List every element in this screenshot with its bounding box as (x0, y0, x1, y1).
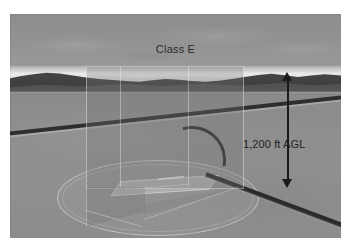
airspace-illustration-figure: Class E 1,200 ft AGL (10, 14, 341, 238)
cloud-texture (10, 14, 341, 70)
airspace-volume-edge-left (120, 66, 121, 187)
arrow-head-down-icon (282, 179, 292, 188)
airspace-volume-edge-right (188, 66, 189, 187)
altitude-label: 1,200 ft AGL (243, 138, 305, 150)
page-root: Class E 1,200 ft AGL (0, 0, 351, 246)
class-e-label: Class E (10, 43, 341, 55)
altitude-dimension-arrow (277, 72, 299, 188)
arrow-shaft (287, 78, 289, 182)
caption-remnant-text (0, 0, 120, 10)
class-e-airspace-volume (86, 66, 244, 189)
